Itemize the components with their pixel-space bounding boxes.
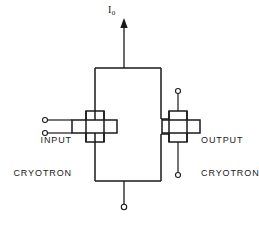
output-cryotron-label-line1: OUTPUT <box>201 135 259 146</box>
input-cryotron-label-line1: INPUT <box>4 135 72 146</box>
input-cryotron-label: INPUT CRYOTRON <box>4 113 72 201</box>
input-current-lead <box>120 18 127 68</box>
output-terminal-bottom <box>176 173 181 178</box>
current-label-subscript: 0 <box>112 9 116 17</box>
output-cryotron <box>162 89 200 178</box>
output-cryotron-control-body <box>162 120 200 133</box>
input-cryotron-label-line2: CRYOTRON <box>4 168 72 179</box>
output-bottom-lead <box>121 181 126 210</box>
schematic-canvas: I0 INPUT CRYOTRON OUTPUT CRYOTRON <box>0 0 259 230</box>
output-cryotron-label-line2: CRYOTRON <box>201 168 259 179</box>
current-label: I0 <box>108 4 115 17</box>
output-cryotron-label: OUTPUT CRYOTRON <box>201 113 259 201</box>
current-arrowhead-icon <box>120 18 127 28</box>
bottom-terminal <box>121 204 126 209</box>
output-terminal-top <box>176 89 181 94</box>
input-cryotron-control-body <box>72 120 117 133</box>
current-label-symbol: I <box>108 4 111 15</box>
